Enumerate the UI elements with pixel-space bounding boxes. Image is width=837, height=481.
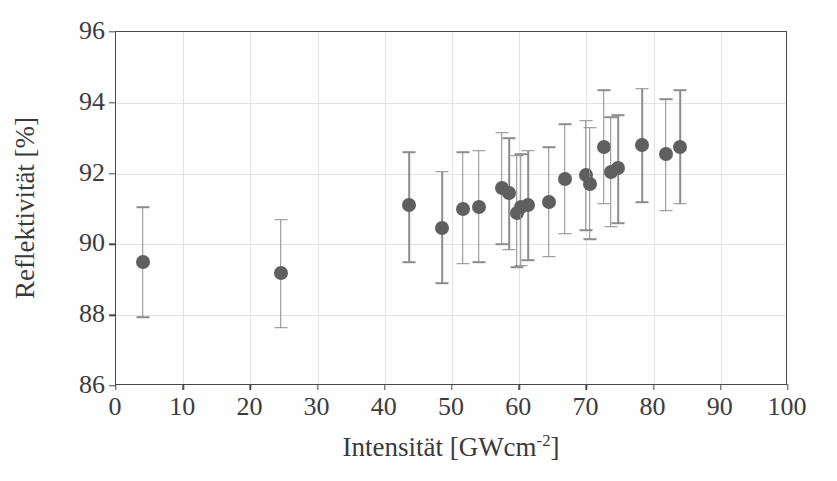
reflectivity-vs-intensity-chart: 868890929496 Reflektivität [%] 010203040… bbox=[0, 0, 837, 481]
error-bar-cap bbox=[583, 238, 596, 240]
error-bar-cap bbox=[597, 90, 610, 92]
data-point-marker bbox=[274, 266, 288, 280]
error-bar-cap bbox=[659, 210, 672, 212]
error-bar-cap bbox=[514, 265, 527, 267]
error-bar-cap bbox=[521, 150, 534, 152]
error-bar-cap bbox=[636, 201, 649, 203]
x-tick-label: 60 bbox=[505, 394, 531, 420]
data-point-marker bbox=[456, 202, 470, 216]
data-point-marker bbox=[402, 198, 416, 212]
data-point-marker bbox=[472, 200, 486, 214]
y-tick-mark bbox=[109, 173, 116, 174]
error-bar-cap bbox=[521, 260, 534, 262]
y-axis-tick-labels: 868890929496 bbox=[48, 31, 105, 385]
x-axis-title-tail: ] bbox=[551, 432, 560, 462]
x-tick-mark bbox=[250, 384, 251, 390]
error-bar-cap bbox=[495, 132, 508, 134]
x-tick-label: 40 bbox=[371, 394, 397, 420]
data-point-marker bbox=[521, 198, 535, 212]
y-tick-mark bbox=[109, 314, 116, 315]
error-bar-cap bbox=[514, 153, 527, 155]
x-tick-mark bbox=[451, 384, 452, 390]
x-tick-label: 0 bbox=[109, 394, 122, 420]
y-axis-title: Reflektivität [%] bbox=[10, 31, 50, 385]
x-axis-title: Intensität [GWcm-2] bbox=[115, 432, 787, 463]
y-tick-label: 90 bbox=[79, 230, 105, 256]
error-bar-cap bbox=[402, 152, 415, 154]
y-tick-mark bbox=[109, 31, 116, 32]
error-bar-cap bbox=[611, 222, 624, 224]
y-tick-label: 94 bbox=[79, 89, 105, 115]
error-bar-cap bbox=[274, 327, 287, 329]
data-point-marker bbox=[611, 161, 625, 175]
error-bar-cap bbox=[435, 171, 448, 173]
data-point-marker bbox=[597, 140, 611, 154]
error-bar-cap bbox=[510, 267, 523, 269]
x-tick-label: 30 bbox=[304, 394, 330, 420]
data-layer bbox=[116, 32, 786, 384]
x-tick-mark bbox=[317, 384, 318, 390]
data-point-marker bbox=[558, 172, 572, 186]
x-tick-label: 50 bbox=[438, 394, 464, 420]
error-bar-cap bbox=[579, 120, 592, 122]
x-tick-mark bbox=[586, 384, 587, 390]
data-point-marker bbox=[583, 177, 597, 191]
error-bar-cap bbox=[495, 244, 508, 246]
error-bar-cap bbox=[611, 114, 624, 116]
y-tick-label: 92 bbox=[79, 160, 105, 186]
plot-area bbox=[115, 31, 787, 385]
data-point-marker bbox=[136, 255, 150, 269]
error-bar-cap bbox=[456, 152, 469, 154]
y-tick-mark bbox=[109, 102, 116, 103]
x-tick-mark bbox=[384, 384, 385, 390]
x-tick-label: 80 bbox=[640, 394, 666, 420]
x-tick-mark bbox=[182, 384, 183, 390]
y-tick-label: 96 bbox=[79, 18, 105, 44]
data-point-marker bbox=[673, 140, 687, 154]
data-point-marker bbox=[542, 195, 556, 209]
error-bar-cap bbox=[659, 98, 672, 100]
error-bar-cap bbox=[456, 263, 469, 265]
error-bar-cap bbox=[274, 219, 287, 221]
data-point-marker bbox=[435, 221, 449, 235]
x-tick-mark bbox=[720, 384, 721, 390]
x-tick-label: 10 bbox=[169, 394, 195, 420]
x-axis-tick-labels: 0102030405060708090100 bbox=[115, 394, 787, 428]
error-bar-cap bbox=[674, 203, 687, 205]
error-bar-cap bbox=[542, 256, 555, 258]
error-bar-cap bbox=[542, 146, 555, 148]
data-point-marker bbox=[659, 147, 673, 161]
y-tick-mark bbox=[109, 244, 116, 245]
error-bar-cap bbox=[604, 226, 617, 228]
error-bar-cap bbox=[435, 283, 448, 285]
error-bar-cap bbox=[402, 261, 415, 263]
error-bar-cap bbox=[597, 203, 610, 205]
x-tick-label: 70 bbox=[572, 394, 598, 420]
x-tick-label: 100 bbox=[768, 394, 807, 420]
error-bar-cap bbox=[503, 137, 516, 139]
error-bar-cap bbox=[472, 261, 485, 263]
error-bar-cap bbox=[604, 116, 617, 118]
data-point-marker bbox=[502, 186, 516, 200]
data-point-marker bbox=[635, 138, 649, 152]
x-tick-mark bbox=[115, 384, 116, 390]
x-tick-mark bbox=[653, 384, 654, 390]
y-tick-label: 88 bbox=[79, 301, 105, 327]
error-bar-cap bbox=[636, 88, 649, 90]
error-bar-cap bbox=[503, 249, 516, 251]
x-axis-title-base: Intensität [GWcm bbox=[342, 432, 536, 462]
error-bar-cap bbox=[136, 206, 149, 208]
x-tick-mark bbox=[787, 384, 788, 390]
error-bar-cap bbox=[674, 90, 687, 92]
error-bar-cap bbox=[136, 316, 149, 318]
error-bar-cap bbox=[558, 233, 571, 235]
x-tick-mark bbox=[518, 384, 519, 390]
x-tick-label: 90 bbox=[707, 394, 733, 420]
y-tick-label: 86 bbox=[79, 372, 105, 398]
error-bar-cap bbox=[558, 123, 571, 125]
error-bar-cap bbox=[472, 150, 485, 152]
x-tick-label: 20 bbox=[236, 394, 262, 420]
error-bar-cap bbox=[583, 127, 596, 129]
x-axis-title-exponent: -2 bbox=[537, 431, 551, 450]
